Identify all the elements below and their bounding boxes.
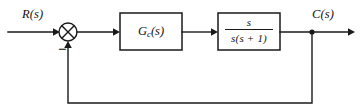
controller-label-suffix: (s) <box>151 24 164 38</box>
controller-input-arrowhead-icon <box>113 28 120 36</box>
controller-block-label: Gc(s) <box>120 24 182 39</box>
feedback-sign-label: − <box>58 42 67 57</box>
output-signal-label: C(s) <box>312 8 334 21</box>
block-diagram-canvas: R(s) C(s) − Gc(s) s s(s + 1) <box>0 0 362 112</box>
output-arrowhead-icon <box>348 28 355 36</box>
controller-label-base: G <box>138 24 147 38</box>
input-signal-label: R(s) <box>22 8 43 21</box>
plant-denominator: s(s + 1) <box>218 30 280 44</box>
plant-numerator: s <box>218 16 280 29</box>
plant-input-arrowhead-icon <box>211 28 218 36</box>
plant-block-label: s s(s + 1) <box>218 16 280 44</box>
block-diagram-svg <box>0 0 362 112</box>
